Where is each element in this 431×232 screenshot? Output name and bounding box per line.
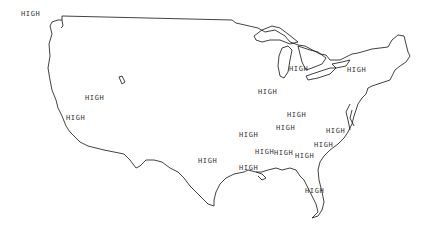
map-label-high: HIGH bbox=[239, 164, 258, 172]
map-label-high: HIGH bbox=[258, 88, 277, 96]
us-outline-map bbox=[0, 0, 431, 232]
great-salt-lake bbox=[119, 76, 125, 84]
map-label-high: HIGH bbox=[276, 124, 295, 132]
map-label-high: HIGH bbox=[289, 65, 308, 73]
map-label-high: HIGH bbox=[295, 152, 314, 160]
map-label-high: HIGH bbox=[198, 157, 217, 165]
map-label-high: HIGH bbox=[326, 127, 345, 135]
map-label-high: HIGH bbox=[239, 131, 258, 139]
puget-sound bbox=[61, 20, 63, 28]
map-label-high: HIGH bbox=[66, 114, 85, 122]
map-label-high: HIGH bbox=[85, 94, 104, 102]
map-label-high: HIGH bbox=[21, 10, 40, 18]
map-label-high: HIGH bbox=[305, 187, 324, 195]
map-label-high: HIGH bbox=[347, 66, 366, 74]
lake-michigan bbox=[278, 46, 292, 78]
map-label-high: HIGH bbox=[255, 148, 274, 156]
chesapeake-bay bbox=[346, 104, 354, 130]
lake-superior bbox=[254, 26, 298, 44]
gulf-coast-detail bbox=[256, 172, 266, 180]
map-label-high: HIGH bbox=[314, 141, 333, 149]
us-border-outline bbox=[48, 16, 410, 218]
lake-erie bbox=[306, 68, 336, 80]
map-label-high: HIGH bbox=[274, 149, 293, 157]
map-label-high: HIGH bbox=[287, 111, 306, 119]
